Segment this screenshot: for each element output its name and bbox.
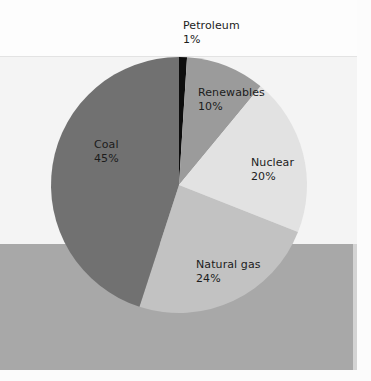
- slice-label-coal-name: Coal: [94, 138, 119, 152]
- slice-label-renewables: Renewables 10%: [198, 86, 265, 114]
- slice-label-petroleum-name: Petroleum: [183, 19, 240, 33]
- slice-label-coal: Coal 45%: [94, 138, 119, 166]
- slice-label-nuclear: Nuclear 20%: [251, 156, 294, 184]
- slice-label-petroleum-value: 1%: [183, 33, 240, 47]
- slice-label-natural-gas-name: Natural gas: [196, 258, 261, 272]
- chart-canvas: Petroleum 1% Renewables 10% Nuclear 20% …: [0, 0, 371, 381]
- slice-label-renewables-name: Renewables: [198, 86, 265, 100]
- slice-label-natural-gas-value: 24%: [196, 272, 261, 286]
- slice-label-nuclear-name: Nuclear: [251, 156, 294, 170]
- pie-slice-group: [51, 57, 307, 313]
- slice-label-coal-value: 45%: [94, 152, 119, 166]
- slice-label-renewables-value: 10%: [198, 100, 265, 114]
- slice-label-natural-gas: Natural gas 24%: [196, 258, 261, 286]
- slice-label-nuclear-value: 20%: [251, 170, 294, 184]
- slice-label-petroleum: Petroleum 1%: [183, 19, 240, 47]
- pie-chart: [0, 0, 371, 381]
